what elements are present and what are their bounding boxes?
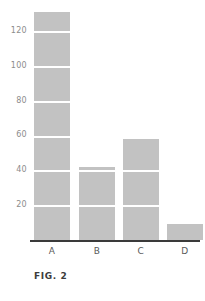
x-tick-label-d: D (165, 246, 205, 256)
gridline-20 (30, 205, 198, 207)
figure-caption: FIG. 2 (34, 271, 67, 281)
x-tick-label-a: A (32, 246, 72, 256)
x-tick-label-c: C (121, 246, 161, 256)
x-axis-baseline (30, 240, 200, 242)
gridline-80 (30, 101, 198, 103)
gridline-120 (30, 31, 198, 33)
y-tick-label-80: 80 (1, 97, 27, 105)
y-axis: 120 100 80 60 40 20 (0, 0, 27, 301)
y-tick-label-120: 120 (1, 27, 27, 35)
gridline-100 (30, 66, 198, 68)
gridline-60 (30, 136, 198, 138)
x-tick-label-b: B (77, 246, 117, 256)
plot-area (30, 8, 198, 240)
y-tick-label-100: 100 (1, 62, 27, 70)
bar-c (123, 139, 159, 240)
figure-container: 120 100 80 60 40 20 A B C D FIG. 2 (0, 0, 205, 301)
y-tick-label-60: 60 (1, 131, 27, 139)
bar-b (79, 167, 115, 240)
bar-d (167, 224, 203, 240)
gridline-40 (30, 170, 198, 172)
y-tick-label-20: 20 (1, 201, 27, 209)
y-tick-label-40: 40 (1, 166, 27, 174)
